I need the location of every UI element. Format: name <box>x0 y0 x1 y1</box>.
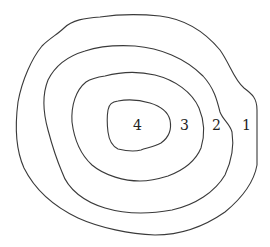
contour-label-2: 2 <box>212 117 221 133</box>
contour-label-3: 3 <box>180 117 189 133</box>
contour-label-4: 4 <box>133 117 142 133</box>
contour-map: 1 2 3 4 <box>0 0 270 247</box>
contour-label-1: 1 <box>242 117 251 133</box>
